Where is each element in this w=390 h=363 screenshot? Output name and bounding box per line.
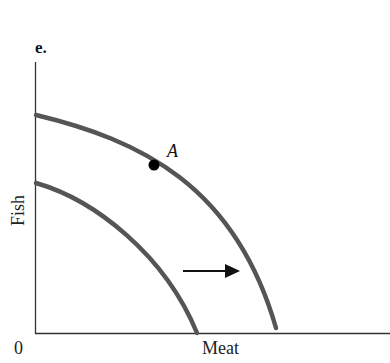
ppf-curve-inner	[36, 183, 197, 333]
ppf-curve-outer	[36, 115, 276, 328]
point-a-marker	[149, 160, 160, 171]
ppf-chart	[0, 0, 390, 363]
arrow-head-icon	[225, 264, 240, 278]
